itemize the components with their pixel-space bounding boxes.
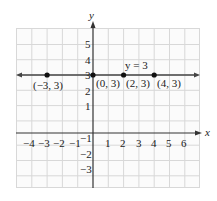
- y-tick: 5: [85, 38, 91, 50]
- x-tick: −4: [23, 137, 35, 149]
- x-tick: 4: [151, 137, 157, 149]
- point-label-0-3: (0, 3): [96, 77, 120, 90]
- x-tick: 1: [105, 137, 111, 149]
- y-tick: 4: [85, 54, 91, 66]
- y-tick: −3: [80, 163, 92, 175]
- x-tick: 6: [181, 137, 187, 149]
- x-tick: 2: [120, 137, 126, 149]
- line-equation-label: y = 3: [125, 59, 148, 71]
- x-tick: −3: [38, 137, 50, 149]
- y-axis-label: y: [88, 9, 94, 21]
- x-tick: 3: [136, 137, 142, 149]
- point-label-4-3: (4, 3): [157, 77, 181, 90]
- y-axis-arrow-icon: [91, 21, 96, 28]
- x-axis-label: x: [204, 126, 210, 138]
- point-0-3: [90, 72, 95, 77]
- y-tick: −1: [80, 132, 92, 144]
- point-label-2-3: (2, 3): [126, 77, 150, 90]
- y-tick: 2: [85, 85, 91, 97]
- y-tick: 3: [85, 69, 91, 81]
- point-neg3-3: [45, 72, 50, 77]
- point-label-neg3-3: (−3, 3): [33, 79, 63, 92]
- x-tick: −1: [69, 137, 81, 149]
- y-tick: −2: [80, 148, 92, 160]
- x-tick: −2: [53, 137, 65, 149]
- coordinate-graph: x y y = 3 (−3, 3) (0, 3) (2, 3) (4, 3) −…: [0, 0, 217, 201]
- y-tick: 1: [85, 100, 91, 112]
- x-tick: 5: [166, 137, 172, 149]
